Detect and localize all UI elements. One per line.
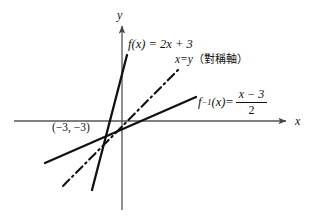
symmetry-note: （對稱軸） [193,53,248,66]
inverse-fraction: x − 3 2 [236,88,267,116]
y-axis-label-text: y [117,8,122,22]
intersection-point-label: (−3, −3) [52,122,90,134]
x-axis-label: x [295,115,300,127]
intersection-point-text: (−3, −3) [52,121,90,133]
function-inverse-graph-figure: f(x) = 2x + 3 x=y（對稱軸） f−1(x) = x − 3 2 … [0,0,314,224]
inverse-equals: = [225,96,233,109]
inverse-arg: (x) [211,96,225,109]
x-axis-label-text: x [295,114,300,128]
function-label: f(x) = 2x + 3 [128,38,193,51]
function-label-text: f(x) = 2x + 3 [128,37,193,51]
symmetry-equation: x=y [175,53,193,65]
fraction-denominator: 2 [246,103,258,117]
fraction-numerator: x − 3 [236,88,267,102]
y-axis-label: y [117,9,122,21]
symmetry-axis-label: x=y（對稱軸） [175,54,248,66]
inverse-function-label: f−1(x) = x − 3 2 [198,88,267,116]
